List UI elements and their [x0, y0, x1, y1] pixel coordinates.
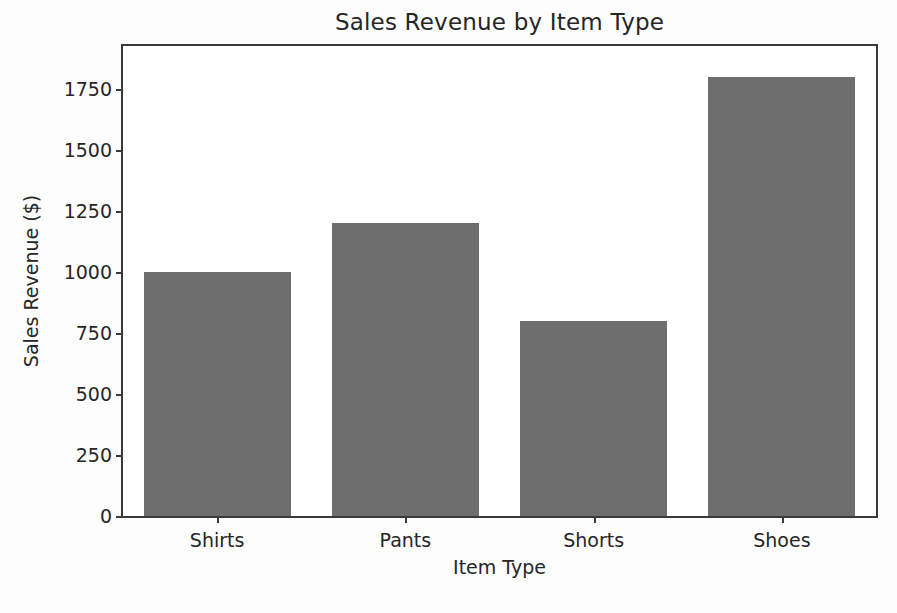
- y-tick-mark: [116, 272, 123, 274]
- x-tick-label: Shorts: [563, 529, 624, 551]
- y-axis-label: Sales Revenue ($): [22, 195, 41, 367]
- x-tick-mark: [782, 516, 784, 523]
- bar-shoes: [708, 77, 855, 516]
- y-tick-mark: [116, 150, 123, 152]
- x-tick-mark: [594, 516, 596, 523]
- y-tick-label: 250: [76, 445, 112, 464]
- y-tick-label: 1500: [64, 140, 112, 159]
- y-tick-mark: [116, 455, 123, 457]
- y-tick-label: 500: [76, 384, 112, 403]
- bar-shirts: [144, 272, 291, 516]
- y-tick-mark: [116, 211, 123, 213]
- bar-shorts: [520, 321, 667, 516]
- y-tick-label: 1000: [64, 262, 112, 281]
- y-tick-mark: [116, 333, 123, 335]
- x-tick-label: Pants: [380, 529, 432, 551]
- x-tick-mark: [217, 516, 219, 523]
- y-tick-label: 0: [100, 507, 112, 526]
- figure-canvas: Sales Revenue by Item Type Sales Revenue…: [0, 0, 897, 613]
- y-tick-mark: [116, 394, 123, 396]
- bar-pants: [332, 223, 479, 516]
- x-tick-mark: [405, 516, 407, 523]
- plot-axes: Sales Revenue ($) 0250500750100012501500…: [121, 44, 878, 518]
- chart-title: Sales Revenue by Item Type: [121, 8, 878, 36]
- plot-area: [123, 46, 876, 516]
- y-tick-label: 1750: [64, 79, 112, 98]
- y-tick-label: 1250: [64, 201, 112, 220]
- y-tick-mark: [116, 89, 123, 91]
- y-tick-mark: [116, 516, 123, 518]
- y-tick-label: 750: [76, 323, 112, 342]
- x-tick-label: Shirts: [190, 529, 245, 551]
- x-tick-label: Shoes: [753, 529, 810, 551]
- x-axis-label: Item Type: [121, 556, 878, 578]
